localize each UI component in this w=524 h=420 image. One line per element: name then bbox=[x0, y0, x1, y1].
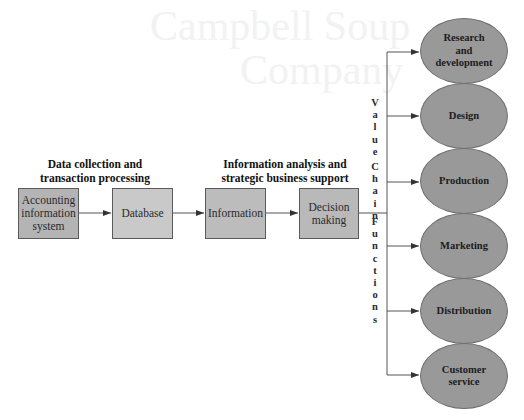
spine-letter: C bbox=[368, 161, 382, 173]
section-label-data-collection: Data collection and transaction processi… bbox=[20, 157, 170, 185]
box-text: system bbox=[21, 220, 75, 233]
ellipse-design: Design bbox=[420, 83, 508, 149]
ellipse-text: Production bbox=[439, 175, 489, 188]
spine-letter: u bbox=[368, 228, 382, 240]
box-text: Accounting bbox=[21, 194, 75, 207]
ellipse-text: Design bbox=[449, 110, 479, 123]
spine-letter: s bbox=[368, 314, 382, 326]
section-label-line: transaction processing bbox=[20, 171, 170, 185]
box-text: Decision bbox=[309, 201, 350, 214]
spine-letter: i bbox=[368, 277, 382, 289]
ellipse-text: development bbox=[435, 57, 492, 70]
box-database: Database bbox=[112, 188, 173, 239]
box-accounting-information-system: Accounting information system bbox=[18, 188, 79, 239]
spine-label-chain: C h a i n bbox=[368, 161, 382, 222]
box-text: Information bbox=[208, 207, 263, 220]
ellipse-production: Production bbox=[420, 148, 508, 214]
spine-letter: t bbox=[368, 265, 382, 277]
spine-letter: l bbox=[368, 121, 382, 133]
spine-label-functions: F u n c t i o n s bbox=[368, 216, 382, 326]
ellipse-customer-service: Customer service bbox=[420, 343, 508, 409]
box-text: Database bbox=[121, 207, 163, 220]
ellipse-text: Distribution bbox=[437, 305, 492, 318]
spine-letter: n bbox=[368, 240, 382, 252]
ellipse-text: service bbox=[442, 376, 486, 389]
ellipse-research-and-development: Research and development bbox=[420, 18, 508, 84]
spine-letter: V bbox=[368, 97, 382, 109]
box-text: information bbox=[21, 207, 75, 220]
ellipse-text: Customer bbox=[442, 364, 486, 377]
ellipse-text: Research bbox=[435, 32, 492, 45]
spine-letter: n bbox=[368, 301, 382, 313]
spine-letter: F bbox=[368, 216, 382, 228]
section-label-information-analysis: Information analysis and strategic busin… bbox=[200, 157, 370, 185]
spine-letter: c bbox=[368, 253, 382, 265]
spine-letter: a bbox=[368, 109, 382, 121]
spine-letter: e bbox=[368, 146, 382, 158]
box-text: making bbox=[309, 214, 350, 227]
spine-letter: u bbox=[368, 134, 382, 146]
section-label-line: Data collection and bbox=[20, 157, 170, 171]
spine-letter: h bbox=[368, 173, 382, 185]
box-decision-making: Decision making bbox=[299, 188, 359, 239]
section-label-line: strategic business support bbox=[200, 171, 370, 185]
ellipse-distribution: Distribution bbox=[420, 278, 508, 344]
ellipse-text: Marketing bbox=[440, 240, 488, 253]
ellipse-text: and bbox=[435, 45, 492, 58]
spine-label-value: V a l u e bbox=[368, 97, 382, 158]
value-chain-diagram: Campbell Soup Company Data collectio bbox=[0, 0, 524, 420]
spine-letter: i bbox=[368, 198, 382, 210]
ellipse-marketing: Marketing bbox=[420, 213, 508, 279]
spine-letter: a bbox=[368, 185, 382, 197]
box-information: Information bbox=[205, 188, 266, 239]
spine-letter: o bbox=[368, 289, 382, 301]
section-label-line: Information analysis and bbox=[200, 157, 370, 171]
